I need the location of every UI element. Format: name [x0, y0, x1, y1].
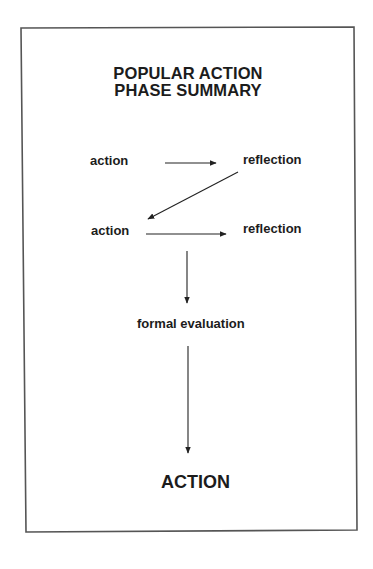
node-formal-evaluation: formal evaluation — [137, 317, 245, 330]
diagram-title-line1: POPULAR ACTION — [88, 65, 288, 82]
node-action-1: action — [90, 154, 128, 167]
node-action-2: action — [91, 224, 129, 237]
node-reflection-1: reflection — [243, 153, 302, 166]
arrow-reflection1-to-action2 — [148, 172, 238, 219]
frame-border — [21, 27, 357, 532]
diagram-title-line2: PHASE SUMMARY — [88, 82, 288, 99]
node-reflection-2: reflection — [243, 222, 302, 235]
node-final-action: ACTION — [161, 473, 230, 491]
